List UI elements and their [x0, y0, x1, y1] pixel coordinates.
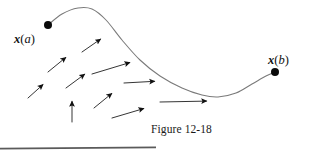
vector-arrow [28, 85, 43, 98]
vector-arrow-shaft [124, 81, 154, 83]
vector-arrow-shaft [48, 58, 66, 72]
vector-arrow [112, 109, 144, 118]
endpoint-markers-group [44, 21, 279, 76]
vector-arrow [160, 101, 206, 102]
footer-rule [0, 147, 156, 148]
start-point-dot [44, 21, 52, 29]
footer-rule-group [0, 147, 156, 148]
end-point-dot [271, 68, 279, 76]
figure-caption-text: Figure 12-18 [151, 123, 212, 135]
figure-caption: Figure 12-18 [0, 123, 321, 135]
vector-arrow-shaft [94, 94, 112, 108]
start-label-close-paren: ) [31, 32, 35, 46]
vector-arrow-shaft [66, 74, 85, 88]
start-point-label: x(a) [14, 33, 35, 46]
figure-canvas [0, 0, 321, 165]
figure-page: x(a) x(b) Figure 12-18 [0, 0, 321, 165]
vector-arrow [48, 58, 66, 72]
vector-arrow [92, 63, 130, 74]
end-point-label: x(b) [268, 54, 289, 67]
vector-arrow [124, 81, 154, 83]
vector-arrow-shaft [92, 63, 130, 74]
vector-field-group [28, 39, 206, 122]
vector-arrow-shaft [112, 109, 144, 118]
vector-arrow [66, 74, 85, 88]
vector-arrow [82, 39, 100, 52]
vector-arrow-shaft [82, 39, 100, 52]
vector-arrow-shaft [160, 101, 206, 102]
vector-arrow [94, 94, 112, 108]
vector-arrow-shaft [28, 85, 43, 98]
end-label-close-paren: ) [285, 53, 289, 67]
